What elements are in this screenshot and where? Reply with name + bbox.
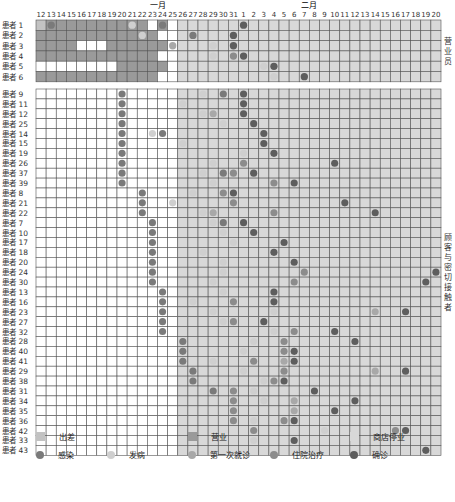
grid-cell (299, 238, 309, 248)
grid-cell (279, 139, 289, 149)
grid-cell (249, 109, 259, 119)
grid-cell (421, 238, 431, 248)
grid-cell (249, 406, 259, 416)
grid-cell (350, 178, 360, 188)
grid-cell (107, 386, 117, 396)
day-tick-label: 4 (272, 11, 277, 19)
grid-cell (188, 109, 198, 119)
grid-cell (77, 148, 87, 158)
confirm-marker-icon (260, 318, 267, 325)
grid-cell (411, 386, 421, 396)
grid-cell (97, 139, 107, 149)
legend-label: 营业 (211, 431, 227, 442)
grid-cell (401, 20, 411, 30)
hospital-marker-icon (230, 318, 237, 325)
grid-cell (411, 61, 421, 71)
grid-cell (147, 20, 157, 30)
patient-timeline-chart: 一月二月121314151617181920212223242526272829… (0, 0, 455, 502)
grid-cell (97, 257, 107, 267)
grid-cell (198, 327, 208, 337)
grid-cell (97, 208, 107, 218)
grid-cell (56, 386, 66, 396)
grid-cell (137, 139, 147, 149)
grid-cell (228, 178, 238, 188)
grid-cell (421, 297, 431, 307)
grid-cell (127, 297, 137, 307)
group-side-label: 密 (444, 262, 452, 272)
grid-cell (56, 337, 66, 347)
patient-label: 患者 31 (2, 386, 28, 396)
grid-cell (370, 61, 380, 71)
grid-cell (137, 327, 147, 337)
grid-cell (249, 297, 259, 307)
grid-cell (56, 416, 66, 426)
first_visit-marker-icon (210, 209, 217, 216)
confirm-marker-icon (291, 358, 298, 365)
grid-cell (330, 317, 340, 327)
grid-cell (218, 238, 228, 248)
grid-cell (178, 247, 188, 257)
grid-cell (259, 41, 269, 51)
confirm-marker-icon (280, 239, 287, 246)
grid-cell (137, 287, 147, 297)
grid-cell (259, 416, 269, 426)
grid-cell (431, 376, 441, 386)
grid-cell (401, 406, 411, 416)
grid-cell (46, 267, 56, 277)
grid-cell (249, 287, 259, 297)
grid-cell (299, 366, 309, 376)
grid-cell (421, 416, 431, 426)
grid-cell (279, 20, 289, 30)
grid-cell (239, 41, 249, 51)
grid-cell (411, 30, 421, 40)
onset-marker-icon (270, 308, 277, 315)
grid-cell (46, 158, 56, 168)
grid-cell (87, 337, 97, 347)
grid-cell (370, 72, 380, 82)
grid-cell (66, 228, 76, 238)
grid-cell (309, 327, 319, 337)
grid-cell (299, 307, 309, 317)
grid-cell (309, 119, 319, 129)
grid-cell (188, 158, 198, 168)
grid-cell (36, 277, 46, 287)
grid-cell (137, 307, 147, 317)
grid-cell (158, 218, 168, 228)
grid-cell (218, 129, 228, 139)
grid-cell (380, 386, 390, 396)
grid-cell (370, 129, 380, 139)
onset-marker-icon (189, 189, 196, 196)
grid-cell (228, 337, 238, 347)
grid-cell (340, 188, 350, 198)
grid-cell (249, 267, 259, 277)
grid-cell (77, 327, 87, 337)
grid-cell (239, 188, 249, 198)
grid-cell (269, 30, 279, 40)
grid-cell (340, 257, 350, 267)
grid-cell (239, 208, 249, 218)
grid-cell (87, 297, 97, 307)
day-tick-label: 12 (37, 11, 46, 19)
grid-cell (401, 148, 411, 158)
grid-cell (117, 257, 127, 267)
grid-cell (309, 61, 319, 71)
grid-cell (158, 188, 168, 198)
grid-cell (218, 51, 228, 61)
grid-cell (107, 148, 117, 158)
grid-cell (380, 30, 390, 40)
grid-cell (188, 198, 198, 208)
grid-cell (228, 20, 238, 30)
grid-cell (390, 148, 400, 158)
grid-cell (218, 99, 228, 109)
grid-cell (188, 208, 198, 218)
grid-cell (401, 238, 411, 248)
grid-cell (178, 168, 188, 178)
patient-label: 患者 8 (2, 188, 23, 198)
grid-cell (249, 158, 259, 168)
grid-cell (127, 307, 137, 317)
patient-label: 患者 13 (2, 287, 28, 297)
grid-cell (360, 247, 370, 257)
day-tick-label: 11 (340, 11, 349, 19)
onset-marker-icon (210, 179, 217, 186)
grid-cell (46, 168, 56, 178)
